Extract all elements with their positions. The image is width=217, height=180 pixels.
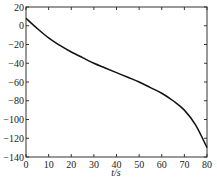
x-tick-label: 50 — [134, 159, 144, 170]
y-tick-label: −120 — [3, 133, 24, 144]
x-tick-label: 80 — [202, 159, 212, 170]
data-line — [26, 18, 207, 147]
y-tick-label: −80 — [8, 95, 24, 106]
y-tick-label: −140 — [3, 152, 24, 163]
plot-frame — [26, 7, 207, 157]
line-chart: 200−20−40−60−80−100−120−140 010203040506… — [0, 0, 217, 180]
y-tick-label: −100 — [3, 114, 24, 125]
y-tick-label: −20 — [8, 39, 24, 50]
x-tick-label: 0 — [24, 159, 29, 170]
x-axis-label: t/s — [111, 167, 121, 178]
y-axis-ticks — [26, 7, 207, 157]
y-tick-label: −60 — [8, 77, 24, 88]
x-tick-label: 60 — [157, 159, 167, 170]
x-tick-label: 70 — [179, 159, 189, 170]
x-tick-label: 30 — [89, 159, 99, 170]
x-tick-label: 20 — [66, 159, 76, 170]
x-tick-label: 10 — [44, 159, 54, 170]
y-axis-tick-labels: 200−20−40−60−80−100−120−140 — [3, 2, 24, 163]
y-tick-label: 20 — [14, 2, 24, 13]
y-tick-label: 0 — [19, 20, 24, 31]
y-tick-label: −40 — [8, 58, 24, 69]
x-axis-ticks — [26, 7, 207, 157]
